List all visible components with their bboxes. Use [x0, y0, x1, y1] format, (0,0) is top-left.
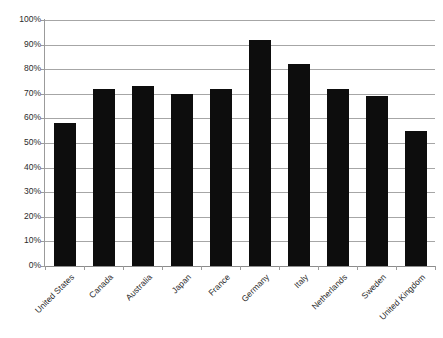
bar-australia — [132, 86, 154, 266]
x-axis-tick — [435, 266, 436, 270]
y-axis-tick-label-wrap: 0% — [0, 261, 41, 270]
x-axis-label-japan: Japan — [115, 272, 193, 338]
y-axis-tick — [41, 69, 45, 70]
y-axis-tick-label-wrap: 100% — [0, 15, 41, 24]
y-axis-tick-label-wrap: 40% — [0, 163, 41, 172]
y-axis-tick-label-wrap: 30% — [0, 187, 41, 196]
x-axis-label-united-kingdom: United Kingdom — [349, 272, 427, 338]
bar-chart: United StatesCanadaAustraliaJapanFranceG… — [0, 0, 443, 338]
bar-canada — [93, 89, 115, 266]
x-axis-label-italy: Italy — [232, 272, 310, 338]
bar-netherlands — [327, 89, 349, 266]
y-axis-tick — [41, 241, 45, 242]
y-axis-tick — [41, 20, 45, 21]
x-axis-tick — [279, 266, 280, 270]
x-axis-tick — [240, 266, 241, 270]
y-axis-tick — [41, 143, 45, 144]
y-axis-tick-label: 40% — [3, 163, 41, 172]
y-axis-tick — [41, 118, 45, 119]
y-axis-tick-label: 60% — [3, 113, 41, 122]
y-axis-tick — [41, 94, 45, 95]
bar-france — [210, 89, 232, 266]
y-axis-tick — [41, 217, 45, 218]
y-axis-tick — [41, 168, 45, 169]
y-axis-tick-label-wrap: 90% — [0, 40, 41, 49]
x-axis-tick — [123, 266, 124, 270]
bar-sweden — [366, 96, 388, 266]
y-axis-tick-label: 50% — [3, 138, 41, 147]
y-axis-tick-label: 0% — [3, 261, 41, 270]
y-axis-tick-label: 80% — [3, 64, 41, 73]
x-axis-label-netherlands: Netherlands — [271, 272, 349, 338]
x-axis-label-france: France — [154, 272, 232, 338]
x-axis-label-united-states: United States — [0, 272, 76, 338]
plot-area — [45, 20, 435, 266]
y-axis-tick-label: 10% — [3, 236, 41, 245]
bar-germany — [249, 40, 271, 266]
y-axis-tick — [41, 192, 45, 193]
x-axis-label-australia: Australia — [76, 272, 154, 338]
bars-layer — [45, 20, 435, 266]
bar-united-kingdom — [405, 131, 427, 266]
y-axis-tick-label-wrap: 10% — [0, 236, 41, 245]
x-axis-tick — [84, 266, 85, 270]
y-axis-tick-label-wrap: 80% — [0, 64, 41, 73]
y-axis-tick-label: 30% — [3, 187, 41, 196]
y-axis-tick-label: 20% — [3, 212, 41, 221]
x-axis-tick — [357, 266, 358, 270]
y-axis-tick-label-wrap: 50% — [0, 138, 41, 147]
y-axis-tick-label-wrap: 70% — [0, 89, 41, 98]
x-axis-tick — [318, 266, 319, 270]
bar-japan — [171, 94, 193, 266]
x-axis-tick — [162, 266, 163, 270]
x-axis-label-sweden: Sweden — [310, 272, 388, 338]
x-axis-tick — [201, 266, 202, 270]
x-axis-tick — [45, 266, 46, 270]
bar-united-states — [54, 123, 76, 266]
x-axis-label-germany: Germany — [193, 272, 271, 338]
y-axis-tick-label-wrap: 60% — [0, 113, 41, 122]
y-axis-tick-label: 70% — [3, 89, 41, 98]
bar-italy — [288, 64, 310, 266]
x-axis-label-canada: Canada — [37, 272, 115, 338]
y-axis-tick-label-wrap: 20% — [0, 212, 41, 221]
y-axis-tick-label: 90% — [3, 40, 41, 49]
x-axis-tick — [396, 266, 397, 270]
y-axis-tick — [41, 45, 45, 46]
y-axis-tick-label: 100% — [3, 15, 41, 24]
